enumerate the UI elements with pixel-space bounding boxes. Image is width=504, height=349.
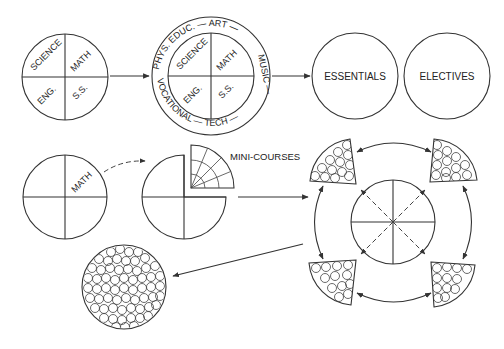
label-science: SCIENCE	[28, 37, 63, 72]
wedge-top-right	[430, 139, 477, 183]
wedge-bottom-left	[309, 260, 356, 305]
stage2-circle: SCIENCE MATH ENG. S.S. PHYS. EDUC. — ART…	[151, 17, 274, 135]
stage3-circles: ESSENTIALS ELECTIVES	[312, 33, 490, 119]
label-ss-2: S.S.	[216, 81, 235, 100]
label-mini-courses: MINI-COURSES	[230, 151, 300, 162]
stage4-circle: MATH	[23, 155, 107, 239]
stage5-circle: MINI-COURSES	[142, 145, 300, 239]
label-science-2: SCIENCE	[174, 36, 209, 71]
label-eng-2: ENG.	[181, 83, 204, 106]
wedge-bottom-right	[431, 262, 475, 307]
label-math: MATH	[68, 49, 93, 74]
ring-label-right: MUSIC —	[256, 53, 274, 95]
label-math-2: MATH	[214, 48, 239, 73]
mini-courses-quadrant	[191, 145, 234, 188]
diagram-canvas: SCIENCE MATH ENG. S.S. SCIENCE MATH ENG.…	[0, 0, 504, 349]
stage1-circle: SCIENCE MATH ENG. S.S.	[22, 34, 108, 120]
label-ss: S.S.	[70, 82, 89, 101]
label-electives: ELECTIVES	[419, 71, 474, 82]
arrow-6-to-7	[173, 244, 303, 276]
dashed-arrow-4-to-5	[104, 161, 145, 172]
label-eng: ENG.	[35, 84, 58, 107]
stage7-circle	[82, 245, 166, 332]
wedge-top-left	[310, 139, 356, 184]
stage6-diagram	[309, 139, 477, 307]
label-essentials: ESSENTIALS	[324, 71, 386, 82]
label-math-3: MATH	[69, 170, 94, 195]
